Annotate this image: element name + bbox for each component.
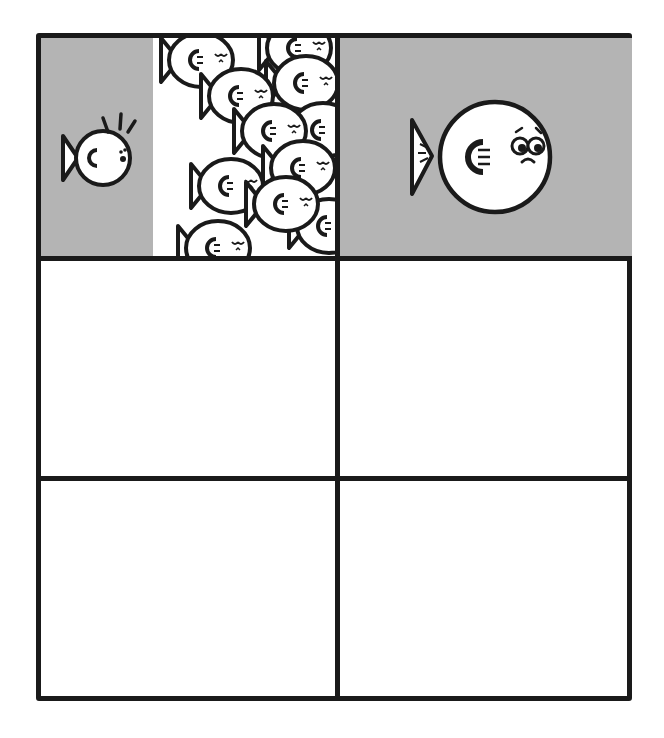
panel-1	[41, 38, 335, 256]
panel-6	[340, 481, 632, 696]
fish-school-illustration	[41, 38, 335, 256]
school-of-fish	[153, 38, 335, 256]
panel-4	[340, 261, 632, 476]
panel-2	[340, 38, 632, 256]
comic-grid	[36, 33, 632, 701]
startled-fish-icon	[63, 114, 135, 185]
worried-fish-icon	[340, 38, 632, 256]
panel-3	[41, 261, 335, 476]
panel-5	[41, 481, 335, 696]
